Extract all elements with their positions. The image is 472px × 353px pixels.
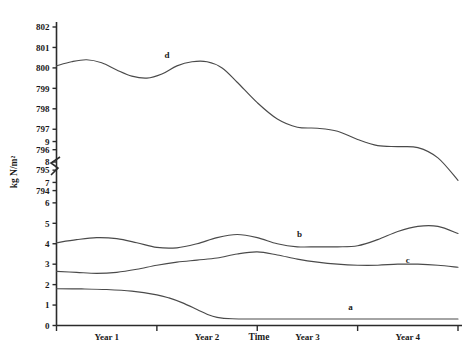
- series-curve-c: [57, 252, 459, 273]
- series-label-a: a: [348, 302, 353, 312]
- x-axis-title: Time: [249, 332, 270, 342]
- nitrogen-time-series-chart: 7947957967977987998008018020123456789 Ye…: [0, 0, 472, 353]
- series-curve-a: [57, 289, 459, 319]
- y-tick-label-798: 798: [36, 104, 50, 114]
- chart-plot-area: 7947957967977987998008018020123456789 Ye…: [0, 0, 472, 353]
- y-tick-label-7: 7: [45, 178, 50, 188]
- x-tick-label-year-4: Year 4: [396, 332, 421, 342]
- y-tick-label-4: 4: [45, 239, 50, 249]
- y-tick-label-9: 9: [45, 137, 50, 147]
- y-tick-label-1: 1: [45, 300, 50, 310]
- y-tick-label-0: 0: [45, 321, 50, 331]
- series-curve-d: [57, 60, 459, 181]
- y-tick-label-2: 2: [45, 280, 50, 290]
- series-curve-b: [57, 226, 459, 249]
- y-tick-label-8: 8: [45, 157, 50, 167]
- y-tick-label-797: 797: [36, 124, 50, 134]
- x-tick-label-year-3: Year 3: [295, 332, 320, 342]
- y-tick-label-6: 6: [45, 198, 50, 208]
- y-axis-ticks: 7947957967977987998008018020123456789: [36, 22, 57, 331]
- y-axis-title: kg N/m²: [9, 156, 19, 189]
- y-tick-label-802: 802: [36, 22, 50, 32]
- series-label-d: d: [164, 50, 169, 60]
- series-labels: abcd: [164, 50, 409, 312]
- y-tick-label-801: 801: [36, 43, 50, 53]
- series-label-c: c: [406, 255, 410, 265]
- x-tick-label-year-2: Year 2: [195, 332, 220, 342]
- y-tick-label-3: 3: [45, 259, 50, 269]
- y-tick-label-5: 5: [45, 219, 50, 229]
- series-curves: [57, 60, 459, 319]
- y-tick-label-799: 799: [36, 84, 50, 94]
- series-label-b: b: [297, 229, 302, 239]
- y-tick-label-800: 800: [36, 63, 50, 73]
- x-tick-label-year-1: Year 1: [94, 332, 119, 342]
